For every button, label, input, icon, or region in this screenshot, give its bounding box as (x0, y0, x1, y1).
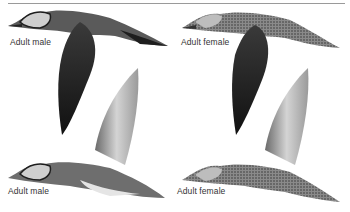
label-adult-female-bottom: Adult female (177, 186, 225, 196)
adult-male-flying-bottom (8, 68, 165, 198)
label-adult-male-bottom: Adult male (8, 186, 49, 196)
label-adult-male-top: Adult male (10, 37, 51, 47)
adult-female-flying-top (182, 12, 340, 135)
adult-female-flying-bottom (182, 68, 340, 202)
adult-male-flying-top (8, 10, 168, 135)
illustration-plate: Adult male Adult female Adult male Adult… (0, 0, 350, 212)
duck-illustrations (0, 0, 350, 212)
label-adult-female-top: Adult female (181, 37, 229, 47)
